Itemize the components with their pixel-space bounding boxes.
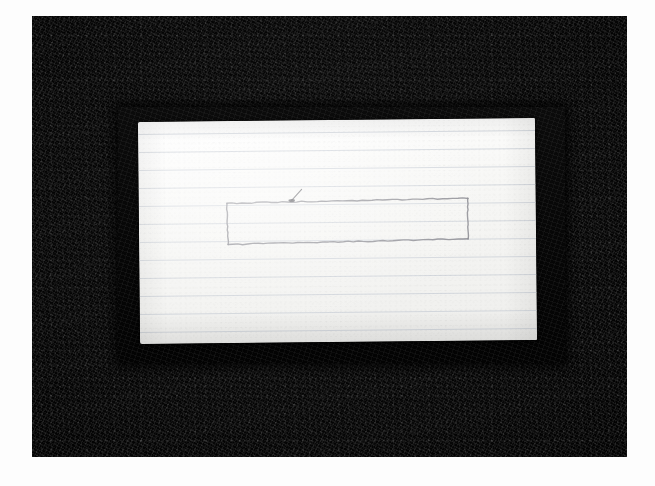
photo-scene <box>0 0 655 486</box>
drawn-rectangle-edge <box>467 198 468 239</box>
drawn-rectangle-group <box>226 188 468 245</box>
paper-rule-line <box>138 166 535 171</box>
drawn-rectangle-edge <box>227 198 468 204</box>
pen-start-blob <box>288 199 294 202</box>
paper-rule-line <box>140 292 537 297</box>
drawn-rectangle-edge <box>227 204 229 245</box>
paper-rule-line <box>138 148 535 153</box>
paper-rule-line <box>139 238 536 243</box>
paper-grain-texture <box>138 118 537 344</box>
paper-sheet <box>138 118 537 344</box>
drawn-rectangle-layer <box>138 118 537 344</box>
paper-rule-line <box>139 202 536 207</box>
drawn-rectangle-svg <box>138 118 537 344</box>
paper-rule-line <box>139 274 536 279</box>
paper-shading-overlay <box>138 118 537 344</box>
pen-start-tail <box>292 189 302 200</box>
paper-rule-line <box>139 184 536 189</box>
paper-rule-line <box>140 310 537 315</box>
paper-rule-line <box>139 220 536 225</box>
paper-ruled-lines <box>138 118 537 344</box>
paper-rule-line <box>138 130 535 135</box>
paper-rule-line <box>140 328 537 333</box>
paper-rule-line <box>139 256 536 261</box>
drawn-rectangle-edge <box>228 239 468 245</box>
paper-surface <box>138 118 537 344</box>
